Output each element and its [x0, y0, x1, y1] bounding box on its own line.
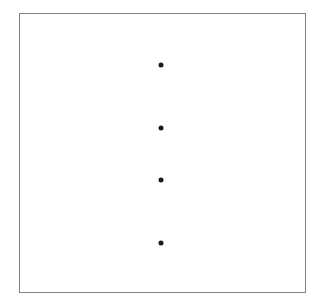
axes-layer	[20, 14, 305, 292]
figure-root	[0, 0, 323, 306]
plot-surface	[20, 14, 305, 292]
data-point	[159, 178, 164, 183]
plot-panel	[19, 13, 306, 293]
data-point	[159, 63, 164, 68]
data-point	[159, 126, 164, 131]
data-point	[159, 241, 164, 246]
